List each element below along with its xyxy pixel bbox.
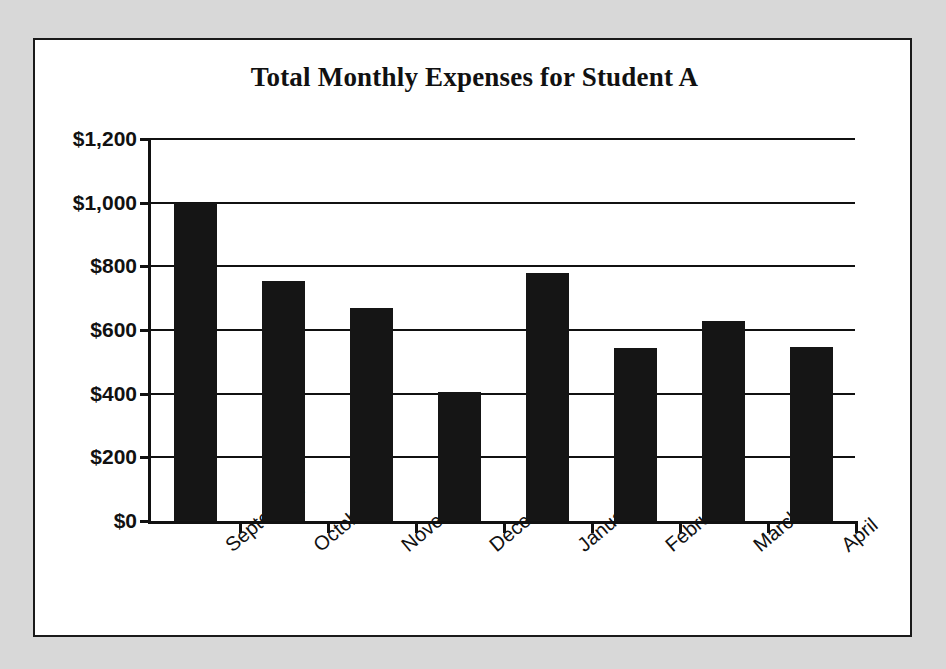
bar <box>526 273 569 521</box>
bar <box>790 347 833 521</box>
y-axis-tick <box>140 393 151 396</box>
y-axis-tick <box>140 329 151 332</box>
bar <box>350 308 393 521</box>
x-axis-label: April <box>837 539 852 557</box>
x-axis-tick <box>239 521 242 533</box>
x-axis-tick <box>591 521 594 533</box>
y-axis-tick <box>140 202 151 205</box>
bar <box>438 392 481 521</box>
y-axis-label: $800 <box>90 254 137 278</box>
x-axis-label: February <box>661 539 676 557</box>
y-axis-label: $400 <box>90 382 137 406</box>
bar <box>262 281 305 521</box>
x-axis-tick <box>855 521 858 533</box>
y-axis-label: $0 <box>114 509 137 533</box>
y-axis-label: $200 <box>90 445 137 469</box>
x-axis-label: October <box>309 539 324 557</box>
y-axis-tick <box>140 265 151 268</box>
x-axis-label: January <box>573 539 588 557</box>
plot-area: $0$200$400$600$800$1,000$1,200 September… <box>148 139 855 524</box>
bar <box>614 348 657 521</box>
x-axis-tick <box>679 521 682 533</box>
x-axis-tick <box>415 521 418 533</box>
y-axis-label: $1,200 <box>73 127 137 151</box>
gridline <box>151 456 855 458</box>
y-axis-label: $1,000 <box>73 191 137 215</box>
chart-title: Total Monthly Expenses for Student A <box>35 62 914 93</box>
gridline <box>151 202 855 204</box>
bar <box>702 321 745 521</box>
chart-figure-frame: Total Monthly Expenses for Student A $0$… <box>33 38 912 637</box>
x-axis-tick <box>767 521 770 533</box>
bar <box>174 203 217 521</box>
y-axis-tick <box>140 138 151 141</box>
x-axis-label: March <box>749 539 764 557</box>
gridline <box>151 393 855 395</box>
gridline <box>151 138 855 140</box>
y-axis-label: $600 <box>90 318 137 342</box>
y-axis-tick <box>140 520 151 523</box>
x-axis-label: September <box>221 539 236 557</box>
x-axis-tick <box>327 521 330 533</box>
gridline <box>151 265 855 267</box>
gridline <box>151 329 855 331</box>
x-axis-label: November <box>397 539 412 557</box>
y-axis-tick <box>140 456 151 459</box>
x-axis-label: December <box>485 539 500 557</box>
x-axis-tick <box>503 521 506 533</box>
